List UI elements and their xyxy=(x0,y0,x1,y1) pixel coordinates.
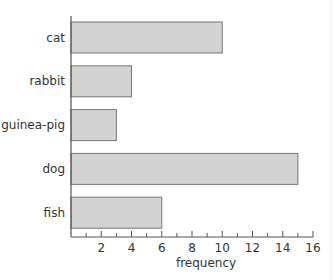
x-tick-labels: 246810121416 xyxy=(97,241,320,255)
tick-label-6: 6 xyxy=(158,241,166,255)
tick-label-10: 10 xyxy=(215,241,230,255)
tick-label-2: 2 xyxy=(97,241,105,255)
category-labels: catrabbitguinea-pigdogfish xyxy=(1,31,65,220)
bar-fish xyxy=(71,197,162,228)
tick-label-16: 16 xyxy=(305,241,320,255)
bar-dog xyxy=(71,153,298,184)
bar-guinea-pig xyxy=(71,110,116,141)
category-label-dog: dog xyxy=(42,162,65,176)
category-label-rabbit: rabbit xyxy=(29,74,65,88)
category-label-cat: cat xyxy=(46,31,65,45)
x-axis-title: frequency xyxy=(176,256,236,270)
bar-rabbit xyxy=(71,66,132,97)
tick-label-4: 4 xyxy=(128,241,136,255)
tick-label-14: 14 xyxy=(275,241,290,255)
bar-chart: catrabbitguinea-pigdogfish 246810121416 … xyxy=(0,0,335,280)
category-label-guinea-pig: guinea-pig xyxy=(1,118,65,132)
bars-group xyxy=(71,22,298,228)
category-label-fish: fish xyxy=(44,206,65,220)
tick-label-8: 8 xyxy=(188,241,196,255)
x-ticks xyxy=(86,231,313,237)
tick-label-12: 12 xyxy=(245,241,260,255)
bar-cat xyxy=(71,22,222,53)
